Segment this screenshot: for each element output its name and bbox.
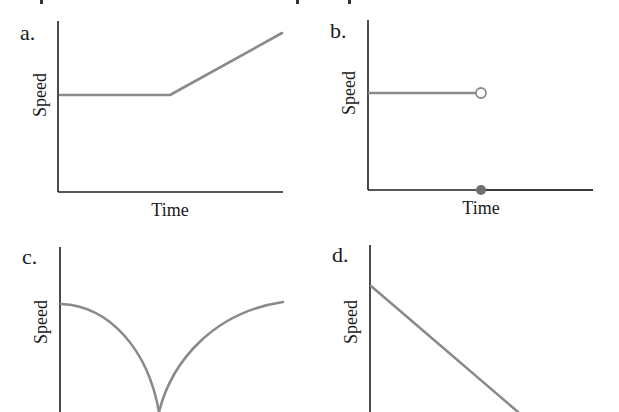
panel-label-d: d. xyxy=(332,242,349,267)
y-axis-label-a: Speed xyxy=(30,73,50,117)
speed-time-figure: a. Speed Time b. Speed Time c. Speed xyxy=(0,0,619,412)
panel-c: c. Speed xyxy=(22,244,283,412)
panel-label-a: a. xyxy=(20,20,35,45)
panel-a: a. Speed Time xyxy=(20,20,283,220)
open-circle-marker xyxy=(476,88,486,98)
y-axis-label-b: Speed xyxy=(339,71,359,115)
speed-curve-d xyxy=(371,286,518,412)
clipped-text-fragment xyxy=(296,0,299,4)
x-axis-label-a: Time xyxy=(151,200,188,220)
panel-d: d. Speed xyxy=(332,242,518,412)
panel-label-b: b. xyxy=(330,18,347,43)
speed-curve-c-decreasing xyxy=(61,304,159,412)
clipped-text-fragment xyxy=(40,0,43,4)
speed-curve-c-increasing xyxy=(159,302,283,412)
panel-label-c: c. xyxy=(22,244,37,269)
filled-circle-marker xyxy=(476,185,486,195)
clipped-text-fragment xyxy=(348,0,351,4)
y-axis-label-c: Speed xyxy=(31,300,51,344)
speed-curve-a xyxy=(60,33,282,95)
panel-b: b. Speed Time xyxy=(330,18,593,218)
x-axis-label-b: Time xyxy=(462,198,499,218)
y-axis-label-d: Speed xyxy=(341,300,361,344)
